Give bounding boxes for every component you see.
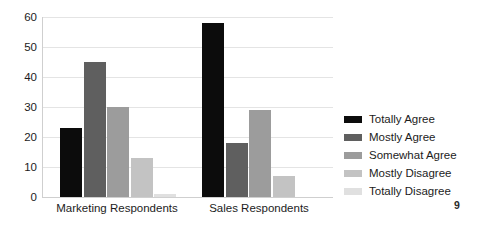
- bar-marketing-respondents-totally-agree: [60, 128, 82, 197]
- legend-swatch-mostly-agree: [344, 134, 362, 141]
- bar-marketing-respondents-mostly-agree: [84, 62, 106, 197]
- bar-marketing-respondents-totally-disagree: [154, 194, 176, 197]
- bar-sales-respondents-totally-agree: [202, 23, 224, 197]
- legend-swatch-mostly-disagree: [344, 170, 362, 177]
- chart-slide: 0102030405060 Marketing RespondentsSales…: [0, 0, 481, 231]
- legend-item-mostly-agree: Mostly Agree: [344, 131, 457, 143]
- y-tick-20: 20: [7, 130, 37, 144]
- legend-item-totally-agree: Totally Agree: [344, 113, 457, 125]
- y-tick-40: 40: [7, 70, 37, 84]
- bar-sales-respondents-somewhat-agree: [249, 110, 271, 197]
- bar-marketing-respondents-mostly-disagree: [131, 158, 153, 197]
- legend-item-mostly-disagree: Mostly Disagree: [344, 167, 457, 179]
- bar-sales-respondents-mostly-disagree: [273, 176, 295, 197]
- y-tick-30: 30: [7, 100, 37, 114]
- legend-swatch-totally-agree: [344, 116, 362, 123]
- legend-swatch-totally-disagree: [344, 188, 362, 195]
- bar-marketing-respondents-somewhat-agree: [107, 107, 129, 197]
- y-tick-10: 10: [7, 160, 37, 174]
- legend-label-somewhat-agree: Somewhat Agree: [369, 149, 457, 161]
- gridline-60: [43, 17, 333, 18]
- x-label-sales-respondents: Sales Respondents: [169, 202, 349, 214]
- plot-area: [42, 17, 333, 198]
- bar-sales-respondents-mostly-agree: [226, 143, 248, 197]
- legend-swatch-somewhat-agree: [344, 152, 362, 159]
- y-tick-50: 50: [7, 40, 37, 54]
- legend-item-somewhat-agree: Somewhat Agree: [344, 149, 457, 161]
- legend-label-mostly-disagree: Mostly Disagree: [369, 167, 451, 179]
- legend-item-totally-disagree: Totally Disagree: [344, 185, 457, 197]
- legend: Totally AgreeMostly AgreeSomewhat AgreeM…: [344, 113, 457, 203]
- legend-label-totally-disagree: Totally Disagree: [369, 185, 451, 197]
- legend-label-mostly-agree: Mostly Agree: [369, 131, 435, 143]
- page-number: 9: [450, 199, 464, 211]
- y-tick-60: 60: [7, 10, 37, 24]
- legend-label-totally-agree: Totally Agree: [369, 113, 435, 125]
- gridline-50: [43, 47, 333, 48]
